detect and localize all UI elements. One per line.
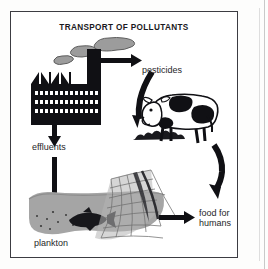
label-food-for-humans: food for humans [199, 208, 231, 229]
figure-page: TRANSPORT OF POLLUTANTS [0, 0, 268, 269]
fishing-net-icon [95, 170, 177, 240]
arrow-cow-to-food-icon [209, 145, 222, 199]
page-edge-rule-secondary [259, 8, 260, 261]
label-pesticides: pesticides [142, 65, 182, 75]
page-edge-rule [264, 0, 265, 269]
cow-icon [133, 94, 218, 143]
figure-canvas: TRANSPORT OF POLLUTANTS [11, 12, 237, 257]
arrow-net-to-food-icon [159, 211, 195, 224]
label-effluents: effluents [32, 142, 66, 152]
arrow-chimney-to-pesticides-icon [101, 54, 142, 67]
figure-frame: TRANSPORT OF POLLUTANTS [10, 11, 238, 258]
label-plankton: plankton [34, 238, 68, 248]
